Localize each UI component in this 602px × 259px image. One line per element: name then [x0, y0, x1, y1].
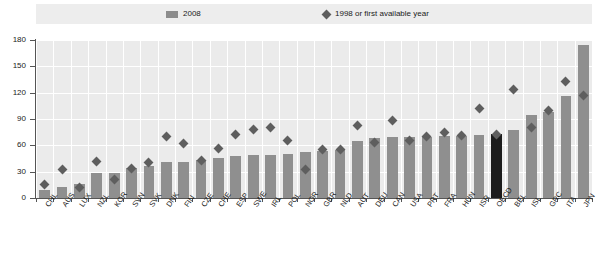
gridline-vertical — [158, 40, 159, 198]
y-axis-tick-label: 180 — [0, 36, 26, 44]
bar-fin — [178, 162, 189, 198]
marker-can — [387, 116, 397, 126]
bar-irl — [265, 155, 276, 198]
bar-nld — [335, 150, 346, 198]
gridline-vertical — [557, 40, 558, 198]
gridline-vertical — [210, 40, 211, 198]
legend-item-label: 1998 or first available year — [335, 10, 429, 18]
y-axis-tick-label: 120 — [0, 89, 26, 97]
marker-swe — [248, 125, 258, 135]
gridline-vertical — [53, 40, 54, 198]
bar-svk — [144, 166, 155, 198]
bar-jpn — [578, 45, 589, 198]
gridline-vertical — [366, 40, 367, 198]
bar-swatch-icon — [166, 11, 178, 18]
bar-che — [213, 158, 224, 198]
bar-can — [387, 137, 398, 198]
y-axis-tick — [30, 172, 35, 173]
bar-esp — [230, 156, 241, 198]
gridline-vertical — [36, 40, 37, 198]
gridline-vertical — [245, 40, 246, 198]
bar-prt — [422, 137, 433, 198]
chart-container: 2008 1998 or first available year 030609… — [0, 0, 602, 259]
legend-item-label: 2008 — [183, 10, 201, 18]
gridline-vertical — [314, 40, 315, 198]
diamond-icon — [322, 9, 332, 19]
gridline-vertical — [540, 40, 541, 198]
bar-isr — [474, 135, 485, 198]
bar-deu — [369, 138, 380, 198]
y-axis-tick — [30, 198, 35, 199]
gridline-vertical — [349, 40, 350, 198]
y-axis-tick — [30, 145, 35, 146]
bar-usa — [404, 137, 415, 198]
gridline-vertical — [227, 40, 228, 198]
bar-pol — [283, 154, 294, 198]
gridline-vertical — [297, 40, 298, 198]
marker-aut — [352, 120, 362, 130]
y-axis-tick — [30, 93, 35, 94]
gridline-vertical — [88, 40, 89, 198]
bar-cze — [196, 160, 207, 198]
gridline-vertical — [575, 40, 576, 198]
gridline-vertical — [488, 40, 489, 198]
y-axis-tick — [30, 66, 35, 67]
gridline-vertical — [470, 40, 471, 198]
y-axis-tick-label: 90 — [0, 115, 26, 123]
gridline-vertical — [436, 40, 437, 198]
gridline-vertical — [523, 40, 524, 198]
chart-legend: 2008 1998 or first available year — [36, 4, 592, 24]
x-axis-tick — [36, 198, 37, 202]
bar-swe — [248, 155, 259, 198]
bar-ita — [561, 96, 572, 198]
gridline-vertical — [123, 40, 124, 198]
y-axis-tick-label: 60 — [0, 141, 26, 149]
gridline-vertical — [175, 40, 176, 198]
gridline-vertical — [418, 40, 419, 198]
bar-fra — [439, 136, 450, 198]
y-axis-tick-label: 30 — [0, 168, 26, 176]
gridline-vertical — [384, 40, 385, 198]
y-axis-tick — [30, 119, 35, 120]
marker-irl — [266, 123, 276, 133]
gridline-vertical — [279, 40, 280, 198]
bar-aut — [352, 141, 363, 198]
marker-fin — [179, 139, 189, 149]
bar-dnk — [161, 162, 172, 198]
plot-area — [36, 40, 592, 198]
gridline-vertical — [453, 40, 454, 198]
gridline-vertical — [71, 40, 72, 198]
marker-chl — [40, 180, 50, 190]
gridline-vertical — [106, 40, 107, 198]
bar-oecd — [491, 134, 502, 198]
bar-gbr — [317, 151, 328, 198]
gridline-vertical — [331, 40, 332, 198]
gridline-vertical — [140, 40, 141, 198]
bar-nor — [300, 152, 311, 198]
y-axis-line — [35, 39, 36, 199]
y-axis-tick-label: 0 — [0, 194, 26, 202]
marker-ita — [561, 76, 571, 86]
gridline-vertical — [262, 40, 263, 198]
y-axis-tick — [30, 40, 35, 41]
legend-item-1998: 1998 or first available year — [323, 4, 429, 24]
bar-hun — [456, 136, 467, 198]
gridline-vertical — [401, 40, 402, 198]
marker-isr — [474, 104, 484, 114]
y-axis-tick-label: 150 — [0, 62, 26, 70]
gridline-vertical — [192, 40, 193, 198]
legend-item-2008: 2008 — [166, 4, 201, 24]
marker-esp — [231, 130, 241, 140]
marker-dnk — [161, 132, 171, 142]
gridline-vertical — [592, 40, 593, 198]
marker-nzl — [92, 156, 102, 166]
gridline-vertical — [505, 40, 506, 198]
bar-grc — [543, 112, 554, 198]
